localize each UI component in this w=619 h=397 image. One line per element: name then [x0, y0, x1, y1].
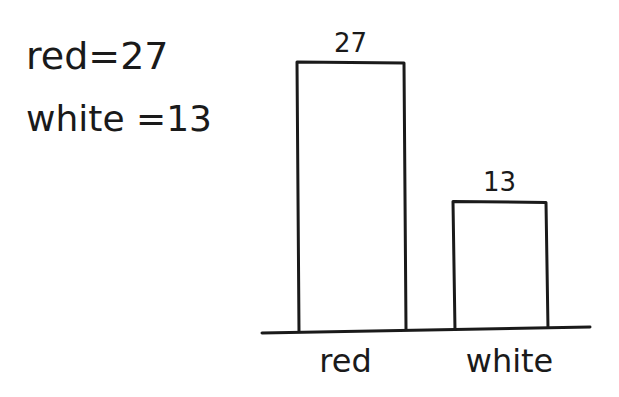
- data-label-white: 13: [483, 167, 516, 197]
- data-label-red: 27: [334, 28, 367, 58]
- bar-chart: 27red13white: [0, 0, 619, 397]
- category-label-red: red: [319, 342, 371, 380]
- category-label-white: white: [466, 342, 554, 380]
- bar-red: [297, 62, 406, 331]
- x-axis-baseline: [262, 327, 590, 333]
- bar-white: [453, 201, 548, 331]
